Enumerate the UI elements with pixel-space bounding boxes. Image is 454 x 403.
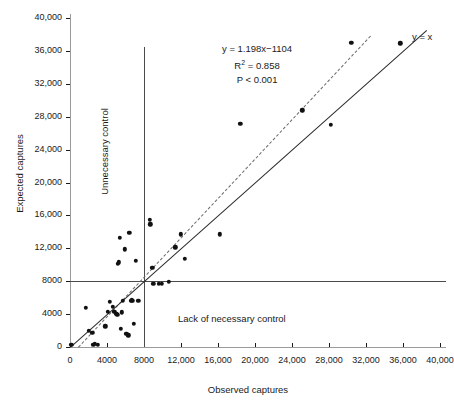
- data-point: [151, 281, 155, 285]
- vertical-threshold-line: [144, 47, 145, 347]
- y-tick-mark: [66, 117, 70, 118]
- data-point: [90, 331, 94, 335]
- y-tick-mark: [66, 215, 70, 216]
- data-point: [131, 299, 135, 303]
- y-tick-label: 32,000: [16, 78, 62, 88]
- data-point: [121, 299, 125, 303]
- y-tick-label: 4000: [16, 308, 62, 318]
- y-tick-mark: [66, 183, 70, 184]
- data-point: [148, 222, 152, 226]
- y-tick-mark: [66, 84, 70, 85]
- data-point: [398, 41, 402, 45]
- y-tick-label: 20,000: [16, 177, 62, 187]
- y-tick-label: 36,000: [16, 45, 62, 55]
- y-tick-label: 40,000: [16, 12, 62, 22]
- data-point: [167, 280, 171, 284]
- y-tick-mark: [66, 248, 70, 249]
- y-tick-mark: [66, 314, 70, 315]
- x-tick-mark: [107, 343, 108, 347]
- data-point: [122, 247, 126, 251]
- scatter-plot: Expected captures Observed captures 0400…: [0, 0, 454, 403]
- x-tick-mark: [366, 343, 367, 347]
- data-point: [150, 266, 154, 270]
- regression-equation: y = 1.198x−1104: [222, 42, 292, 56]
- quadrant-label-lack-of-necessary-control: Lack of necessary control: [178, 313, 286, 324]
- x-tick-mark: [292, 343, 293, 347]
- data-point: [133, 258, 137, 262]
- data-point: [119, 327, 123, 331]
- x-tick-mark: [218, 343, 219, 347]
- data-point: [173, 245, 177, 249]
- x-tick-mark: [440, 343, 441, 347]
- x-axis-line: [70, 347, 446, 348]
- y-tick-label: 28,000: [16, 111, 62, 121]
- x-tick-mark: [403, 343, 404, 347]
- data-point: [117, 260, 121, 264]
- identity-line-label: y = x: [412, 31, 432, 42]
- y-tick-label: 8000: [16, 275, 62, 285]
- data-point: [108, 300, 112, 304]
- y-axis-line: [70, 14, 71, 348]
- p-value: P < 0.001: [222, 73, 292, 87]
- x-tick-mark: [329, 343, 330, 347]
- horizontal-threshold-line: [70, 281, 446, 282]
- data-point: [182, 257, 186, 261]
- y-tick-mark: [66, 51, 70, 52]
- y-tick-label: 0: [16, 341, 62, 351]
- r-squared: R2 = 0.858: [222, 56, 292, 73]
- data-point: [84, 305, 88, 309]
- y-tick-mark: [66, 150, 70, 151]
- data-point: [120, 310, 124, 314]
- data-point: [159, 281, 163, 285]
- y-tick-label: 16,000: [16, 209, 62, 219]
- regression-annotation: y = 1.198x−1104 R2 = 0.858 P < 0.001: [222, 42, 292, 87]
- data-point: [147, 217, 151, 221]
- data-point: [126, 333, 130, 337]
- quadrant-label-unnecessary-control: Unnecessary control: [99, 100, 110, 204]
- data-point: [127, 230, 131, 234]
- y-tick-label: 12,000: [16, 242, 62, 252]
- data-point: [218, 232, 222, 236]
- data-point: [115, 313, 119, 317]
- x-tick-mark: [181, 343, 182, 347]
- data-point: [300, 108, 304, 112]
- data-point: [329, 123, 333, 127]
- y-tick-label: 24,000: [16, 144, 62, 154]
- data-point: [238, 122, 242, 126]
- x-tick-mark: [255, 343, 256, 347]
- data-point: [136, 299, 140, 303]
- data-point: [103, 324, 107, 328]
- data-point: [132, 322, 136, 326]
- x-tick-label: 40,000: [417, 355, 454, 365]
- y-tick-mark: [66, 18, 70, 19]
- x-axis-title: Observed captures: [128, 384, 368, 395]
- data-point: [118, 235, 122, 239]
- data-point: [349, 40, 353, 44]
